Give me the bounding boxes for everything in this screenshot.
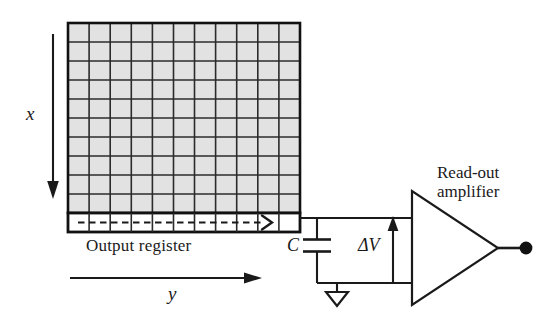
- figure-canvas: x y Output register C ΔV Read-outamplifi…: [0, 0, 553, 318]
- axis-y-label: y: [168, 283, 176, 304]
- readout-amplifier-label-line1: Read-out: [437, 163, 499, 182]
- readout-amplifier-label: Read-outamplifier: [437, 163, 499, 201]
- output-register-label: Output register: [86, 236, 191, 255]
- capacitor-icon: [303, 240, 331, 252]
- readout-amplifier-icon: [412, 191, 532, 305]
- output-node-dot: [520, 242, 533, 255]
- delta-voltage-label: ΔV: [358, 235, 380, 255]
- capacitor-label: C: [287, 235, 299, 255]
- ccd-readout-diagram: [0, 0, 553, 318]
- axis-y-arrow: [70, 272, 262, 283]
- delta-v-arrow: [388, 216, 399, 283]
- axis-x-arrow: [47, 34, 59, 199]
- readout-amplifier-label-line2: amplifier: [437, 182, 499, 201]
- output-register: [68, 213, 300, 232]
- axis-x-label: x: [26, 103, 34, 124]
- ground-icon: [326, 292, 348, 306]
- pixel-array: [68, 23, 300, 213]
